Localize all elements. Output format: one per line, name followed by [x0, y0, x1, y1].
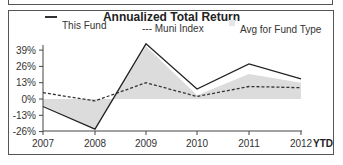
y-tick-label: -13%: [13, 110, 36, 121]
x-tick-label: 2007: [32, 138, 55, 149]
x-tick-label: 2010: [186, 138, 209, 149]
y-tick-label: 26%: [16, 61, 36, 72]
x-tick-label: 2009: [135, 138, 158, 149]
y-tick-label: -26%: [13, 126, 36, 137]
x-tick-label: 2008: [84, 138, 107, 149]
plot-area: 39%26%13%0%-13%-26%200720082009201020112…: [0, 0, 343, 165]
y-tick-label: 0%: [22, 94, 37, 105]
ytd-label: YTD: [313, 138, 333, 149]
x-tick-label: 2012: [290, 138, 313, 149]
y-tick-label: 39%: [16, 45, 36, 56]
y-tick-label: 13%: [16, 77, 36, 88]
avg-fund-type-area: [43, 46, 301, 129]
x-tick-label: 2011: [238, 138, 260, 149]
